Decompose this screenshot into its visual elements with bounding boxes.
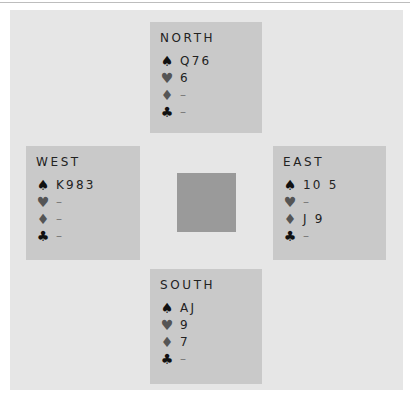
heart-icon: ♥: [160, 317, 174, 334]
suit-row-hearts: ♥ –: [283, 194, 386, 211]
cards-diamonds: –: [56, 211, 64, 228]
cards-hearts: –: [56, 194, 64, 211]
hand-north: NORTH ♠ Q76 ♥ 6 ♦ – ♣ –: [150, 22, 262, 133]
club-icon: ♣: [283, 228, 297, 245]
suit-row-spades: ♠ Q76: [160, 53, 262, 70]
suit-row-clubs: ♣ –: [283, 228, 386, 245]
cards-hearts: 9: [180, 317, 190, 334]
spade-icon: ♠: [36, 177, 50, 194]
cards-hearts: 6: [180, 70, 190, 87]
cards-spades: K983: [56, 177, 96, 194]
heart-icon: ♥: [36, 194, 50, 211]
suit-row-spades: ♠ AJ: [160, 300, 262, 317]
cards-clubs: –: [56, 228, 64, 245]
suit-row-diamonds: ♦ 7: [160, 334, 262, 351]
cards-spades: 10 5: [303, 177, 339, 194]
cards-clubs: –: [180, 104, 188, 121]
suit-row-spades: ♠ 10 5: [283, 177, 386, 194]
cards-hearts: –: [303, 194, 311, 211]
diamond-icon: ♦: [160, 87, 174, 104]
hand-east: EAST ♠ 10 5 ♥ – ♦ J 9 ♣ –: [273, 146, 386, 260]
suit-row-hearts: ♥ 6: [160, 70, 262, 87]
suit-row-spades: ♠ K983: [36, 177, 140, 194]
top-rule: [0, 2, 410, 3]
club-icon: ♣: [36, 228, 50, 245]
hand-west: WEST ♠ K983 ♥ – ♦ – ♣ –: [26, 146, 140, 260]
hand-title: SOUTH: [160, 278, 262, 292]
cards-clubs: –: [303, 228, 311, 245]
club-icon: ♣: [160, 104, 174, 121]
cards-diamonds: 7: [180, 334, 190, 351]
table-center: [177, 173, 236, 232]
suit-row-clubs: ♣ –: [160, 104, 262, 121]
hand-south: SOUTH ♠ AJ ♥ 9 ♦ 7 ♣ –: [150, 269, 262, 384]
suit-row-hearts: ♥ 9: [160, 317, 262, 334]
heart-icon: ♥: [283, 194, 297, 211]
cards-clubs: –: [180, 351, 188, 368]
cards-spades: Q76: [180, 53, 211, 70]
diamond-icon: ♦: [36, 211, 50, 228]
spade-icon: ♠: [283, 177, 297, 194]
suit-row-clubs: ♣ –: [36, 228, 140, 245]
suit-row-clubs: ♣ –: [160, 351, 262, 368]
suit-row-diamonds: ♦ –: [160, 87, 262, 104]
cards-diamonds: –: [180, 87, 188, 104]
suit-row-diamonds: ♦ J 9: [283, 211, 386, 228]
diamond-icon: ♦: [160, 334, 174, 351]
cards-spades: AJ: [180, 300, 196, 317]
suit-row-diamonds: ♦ –: [36, 211, 140, 228]
hand-title: NORTH: [160, 31, 262, 45]
spade-icon: ♠: [160, 53, 174, 70]
diamond-icon: ♦: [283, 211, 297, 228]
suit-row-hearts: ♥ –: [36, 194, 140, 211]
hand-title: EAST: [283, 155, 386, 169]
cards-diamonds: J 9: [303, 211, 325, 228]
heart-icon: ♥: [160, 70, 174, 87]
club-icon: ♣: [160, 351, 174, 368]
spade-icon: ♠: [160, 300, 174, 317]
hand-title: WEST: [36, 155, 140, 169]
